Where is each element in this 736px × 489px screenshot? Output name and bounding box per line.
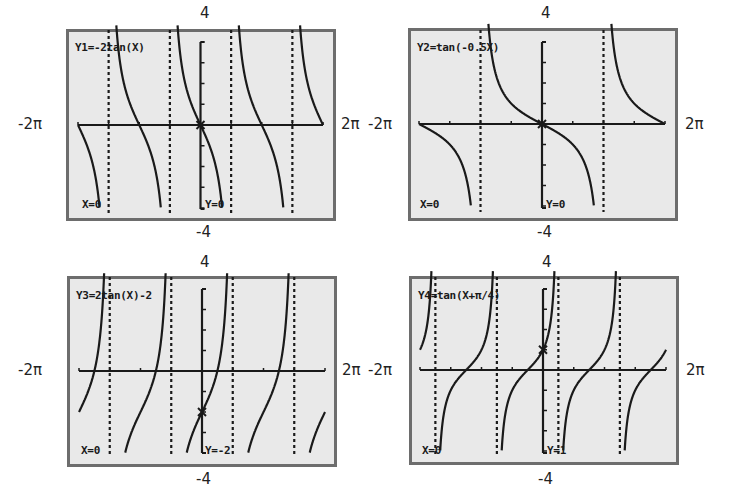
equation-label: Y4=tan(X+π/4) — [418, 290, 500, 301]
cursor-x-readout: X=0 — [422, 445, 441, 456]
cursor-y-readout: Y=1 — [547, 445, 566, 456]
graph-plot — [0, 0, 736, 489]
